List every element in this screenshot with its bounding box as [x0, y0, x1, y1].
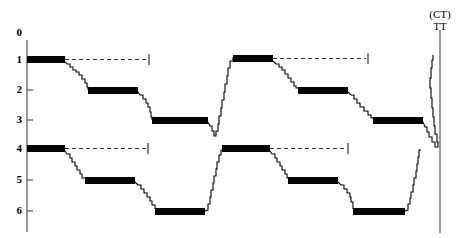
y-tick-label-1: 1: [8, 54, 22, 65]
plateau-bar-level-6-cycle-1: [155, 208, 205, 215]
recovery-rise-cycle-1: [208, 57, 233, 136]
jagged-transition-1-to-2-cycle-1: [65, 62, 88, 90]
y-tick-label-4: 4: [8, 143, 22, 154]
plot-canvas: [0, 0, 464, 238]
plateau-bar-level-3-cycle-1: [152, 117, 208, 124]
plateau-bar-level-2-cycle-2: [298, 87, 348, 94]
upper-staircase-cycle-2: [233, 53, 438, 147]
right-axis-label-tt: TT: [420, 20, 460, 32]
step-decline-figure: 0 1 2 3 4 5 6 (CT) TT: [0, 0, 464, 238]
plateau-bar-level-5-cycle-1: [85, 177, 135, 184]
y-tick-label-2: 2: [8, 84, 22, 95]
jagged-transition-1-to-2-cycle-2: [273, 61, 298, 88]
jagged-transition-4-to-5-cycle-1: [65, 151, 85, 178]
plateau-bar-level-4-cycle-2: [222, 145, 270, 152]
recovery-rise-lower-cycle-2: [405, 150, 421, 211]
jagged-transition-2-to-3-cycle-2: [348, 92, 373, 118]
upper-staircase-cycle-1: [27, 54, 233, 136]
plateau-bar-level-1-cycle-1: [27, 56, 65, 63]
plateau-bar-level-2-cycle-1: [88, 87, 138, 94]
lower-staircase-cycle-1: [27, 143, 222, 215]
y-tick-label-0: 0: [8, 27, 22, 38]
recovery-rise-lower-cycle-1: [205, 150, 222, 211]
plateau-bar-level-4-cycle-1: [27, 145, 65, 152]
y-tick-label-3: 3: [8, 114, 22, 125]
right-axis-label-ct: (CT): [420, 8, 460, 20]
recovery-rise-cycle-2: [423, 55, 438, 147]
jagged-transition-5-to-6-cycle-1: [135, 182, 155, 209]
y-tick-label-5: 5: [8, 174, 22, 185]
plateau-bar-level-5-cycle-2: [288, 177, 338, 184]
jagged-transition-5-to-6-cycle-2: [338, 182, 353, 209]
jagged-transition-2-to-3-cycle-1: [138, 92, 152, 120]
jagged-transition-4-to-5-cycle-2: [270, 151, 288, 178]
y-axis-group: [27, 40, 33, 232]
plateau-bar-level-3-cycle-2: [373, 117, 423, 124]
plateau-bar-level-1-cycle-2: [233, 55, 273, 62]
y-tick-label-6: 6: [8, 205, 22, 216]
plateau-bar-level-6-cycle-2: [353, 208, 405, 215]
lower-staircase-cycle-2: [222, 143, 421, 215]
